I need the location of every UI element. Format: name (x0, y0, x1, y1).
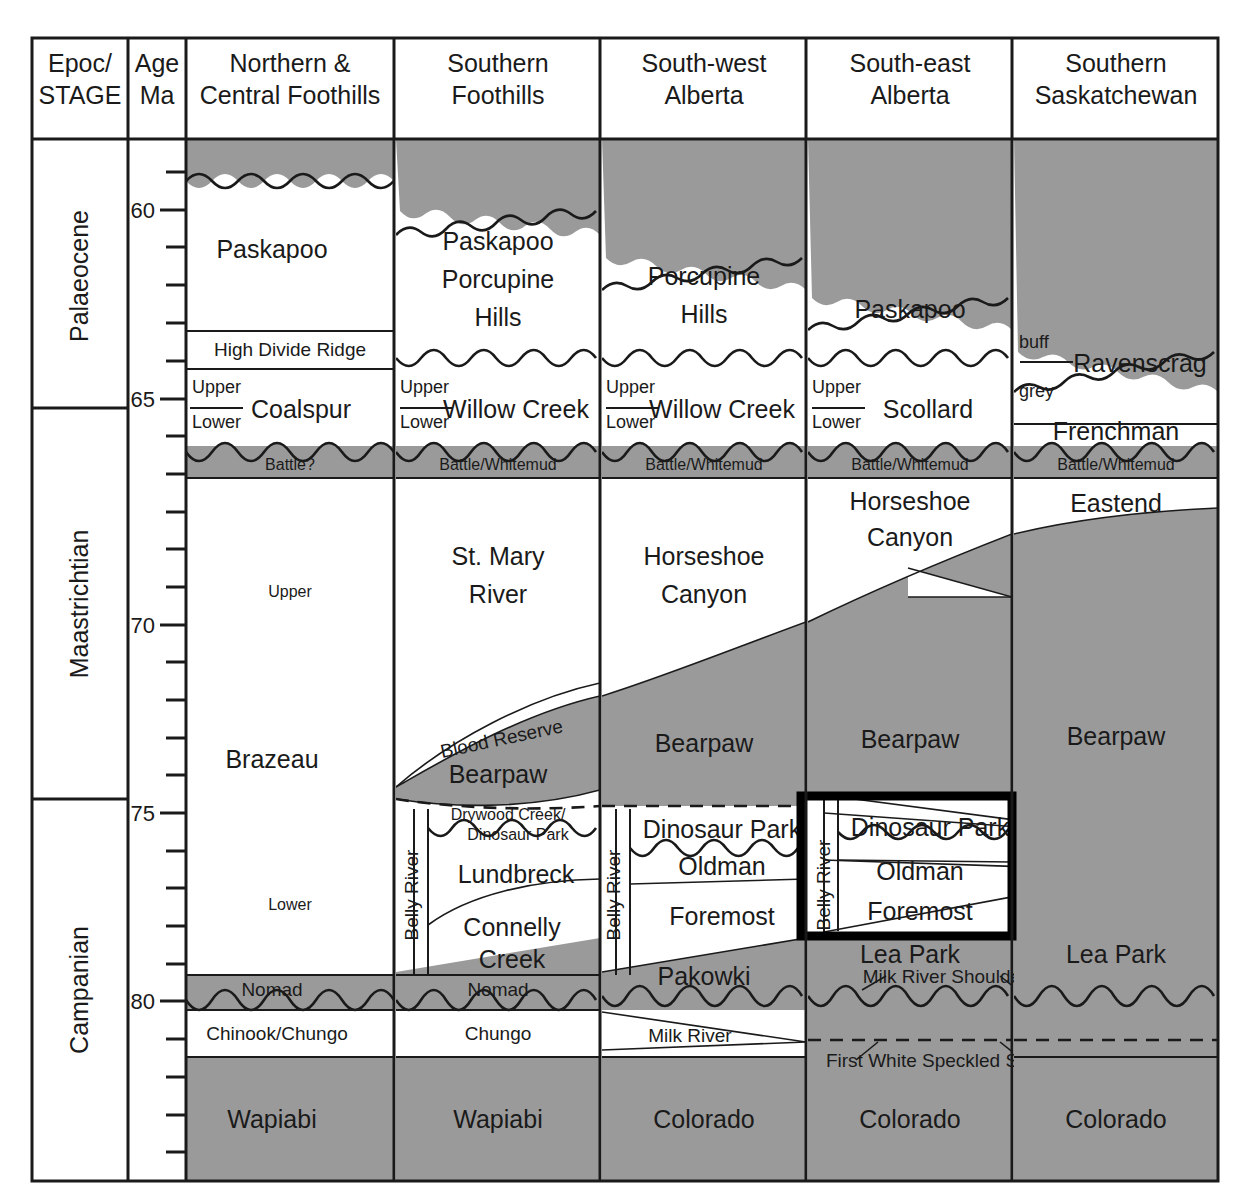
unit-canyon-d: Canyon (867, 523, 953, 551)
unit-belly-river-d: Belly River (813, 839, 834, 930)
unit-oldman-d: Oldman (876, 857, 964, 885)
unit-nomad-a: Nomad (241, 979, 302, 1000)
unit-wapiabi-a: Wapiabi (227, 1105, 316, 1133)
label-willow-creek-lower-b: Lower (400, 412, 449, 432)
header-epoch-line1: Epoc/ (48, 49, 112, 77)
unit-chungo: Chungo (465, 1023, 532, 1044)
unit-horseshoe-c: Horseshoe (644, 542, 765, 570)
unit-chinook-chungo: Chinook/Chungo (206, 1023, 348, 1044)
label-scollard-upper: Upper (812, 377, 861, 397)
unit-oldman-c: Oldman (678, 852, 766, 880)
header-row: Epoc/ STAGE Age Ma Northern & Central Fo… (32, 38, 1218, 139)
unit-belly-river-c: Belly River (603, 849, 624, 940)
header-age-line1: Age (135, 49, 179, 77)
unit-bearpaw-c: Bearpaw (655, 729, 755, 757)
unit-willow-creek-c: Willow Creek (649, 395, 795, 423)
unit-drywood-line1: Drywood Creek/ (451, 806, 566, 823)
label-brazeau-upper: Upper (268, 583, 312, 600)
unit-porcupine-c: Porcupine (648, 262, 761, 290)
unit-battle-whitemud-d: Battle/Whitemud (851, 456, 968, 473)
unit-porcupine-b: Porcupine (442, 265, 555, 293)
unit-paskapoo-b: Paskapoo (442, 227, 553, 255)
unit-dinosaur-park-c: Dinosaur Park (643, 815, 802, 843)
unit-eastend: Eastend (1070, 489, 1162, 517)
unit-willow-creek-b: Willow Creek (443, 395, 589, 423)
unit-paskapoo-a: Paskapoo (216, 235, 327, 263)
header-col-s-saskatchewan-line1: Southern (1065, 49, 1166, 77)
label-ravenscrag-buff: buff (1019, 332, 1050, 352)
header-col-s-saskatchewan-line2: Saskatchewan (1035, 81, 1198, 109)
label-coalspur-upper: Upper (192, 377, 241, 397)
unit-foremost-c: Foremost (669, 902, 775, 930)
header-col-north-central-line2: Central Foothills (200, 81, 381, 109)
label-willow-creek-upper-b: Upper (400, 377, 449, 397)
unit-colorado-d: Colorado (859, 1105, 960, 1133)
unit-drywood-line2: Dinosaur Park (467, 826, 569, 843)
header-epoch-line2: STAGE (39, 81, 122, 109)
stage-maastrichtian: Maastrichtian (65, 530, 93, 679)
unit-hills-b: Hills (474, 303, 521, 331)
label-scollard-lower: Lower (812, 412, 861, 432)
unit-colorado-e: Colorado (1065, 1105, 1166, 1133)
unit-wapiabi-b: Wapiabi (453, 1105, 542, 1133)
unit-brazeau: Brazeau (225, 745, 318, 773)
unit-canyon-c: Canyon (661, 580, 747, 608)
unit-pakowki: Pakowki (657, 962, 750, 990)
unit-lea-park-d: Lea Park (860, 940, 961, 968)
unit-st-mary-b: St. Mary (451, 542, 545, 570)
header-col-sw-alberta-line2: Alberta (664, 81, 743, 109)
unit-bearpaw-e: Bearpaw (1067, 722, 1167, 750)
unit-bearpaw-b: Bearpaw (449, 760, 549, 788)
unit-scollard: Scollard (883, 395, 973, 423)
unit-lea-park-e: Lea Park (1066, 940, 1167, 968)
label-willow-creek-lower-c: Lower (606, 412, 655, 432)
age-tick-60: 60 (131, 198, 155, 223)
unit-battle-whitemud-c: Battle/Whitemud (645, 456, 762, 473)
unit-hills-c: Hills (680, 300, 727, 328)
unit-battle-a: Battle? (265, 456, 315, 473)
unit-horseshoe-d: Horseshoe (850, 487, 971, 515)
age-tick-80: 80 (131, 989, 155, 1014)
unit-coalspur: Coalspur (251, 395, 351, 423)
stratigraphic-chart: Epoc/ STAGE Age Ma Northern & Central Fo… (0, 0, 1247, 1194)
unit-bearpaw-d: Bearpaw (861, 725, 961, 753)
label-willow-creek-upper-c: Upper (606, 377, 655, 397)
age-tick-70: 70 (131, 613, 155, 638)
marker-milk-river-shoulder: Milk River Shoulder (863, 966, 1028, 987)
unit-connelly: Connelly (463, 913, 561, 941)
header-age-line2: Ma (140, 81, 175, 109)
unit-milk-river: Milk River (648, 1025, 732, 1046)
age-tick-65: 65 (131, 387, 155, 412)
label-brazeau-lower: Lower (268, 896, 312, 913)
label-coalspur-lower: Lower (192, 412, 241, 432)
column-s-saskatchewan (1014, 139, 1218, 1181)
unit-river-b: River (469, 580, 527, 608)
unit-colorado-c: Colorado (653, 1105, 754, 1133)
unit-lundbreck: Lundbreck (458, 860, 575, 888)
epoch-palaeocene: Palaeocene (65, 210, 93, 342)
unit-frenchman: Frenchman (1053, 417, 1179, 445)
header-col-se-alberta-line1: South-east (850, 49, 971, 77)
unit-paskapoo-d: Paskapoo (854, 295, 965, 323)
unit-foremost-d: Foremost (867, 897, 973, 925)
unit-ravenscrag: Ravenscrag (1073, 349, 1206, 377)
unit-battle-whitemud-e: Battle/Whitemud (1057, 456, 1174, 473)
unit-dinosaur-park-d: Dinosaur Park (851, 813, 1010, 841)
unit-high-divide-ridge: High Divide Ridge (214, 339, 366, 360)
label-ravenscrag-grey: grey (1019, 381, 1054, 401)
header-col-southern-foothills-line2: Foothills (451, 81, 544, 109)
header-col-se-alberta-line2: Alberta (870, 81, 949, 109)
unit-belly-river-b: Belly River (401, 849, 422, 940)
unit-nomad-b: Nomad (467, 979, 528, 1000)
header-col-north-central-line1: Northern & (230, 49, 351, 77)
unit-battle-whitemud-b: Battle/Whitemud (439, 456, 556, 473)
unit-creek-b: Creek (479, 945, 546, 973)
age-tick-75: 75 (131, 801, 155, 826)
header-col-southern-foothills-line1: Southern (447, 49, 548, 77)
header-col-sw-alberta-line1: South-west (641, 49, 766, 77)
stage-campanian: Campanian (65, 926, 93, 1054)
